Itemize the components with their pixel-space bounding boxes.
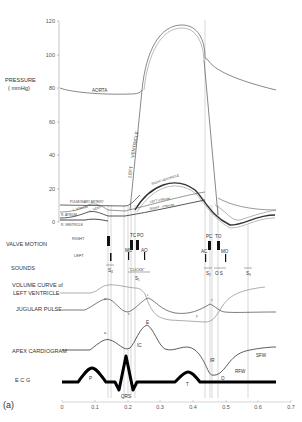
volume-curve xyxy=(60,285,265,322)
apex-ic: IC xyxy=(137,343,142,348)
left-atrium-label: LEFT ATRIUM xyxy=(149,196,170,204)
jug-y: y xyxy=(196,314,198,318)
p-tick-0: 0 xyxy=(52,219,55,225)
right-ventricle-low-curve xyxy=(60,219,108,221)
jugular-curve xyxy=(62,298,276,313)
t-tick-0.7: 0.7 xyxy=(287,404,295,410)
jug-c: c xyxy=(147,293,149,297)
apex-a: a xyxy=(104,330,107,335)
apex-e: E xyxy=(146,320,149,325)
apex-rfw: RFW xyxy=(235,369,246,374)
sound-clicks: "CLICKS" xyxy=(129,268,145,272)
time-axis: 0 0.1 0.2 0.3 0.4 0.5 0.6 0.7 xyxy=(60,400,294,410)
sound-s2: S₂ xyxy=(206,271,211,276)
apex-label: APEX CARDIOGRAM xyxy=(12,348,67,354)
jug-x: x xyxy=(128,312,130,316)
aorta-systolic-inner xyxy=(144,28,204,90)
pressure-label: PRESSURE xyxy=(5,77,36,83)
valve-po: PO xyxy=(137,233,144,238)
lv-label-ventricle: VENTRICLE xyxy=(130,131,140,158)
event-lines xyxy=(108,20,248,398)
panel-label: (a) xyxy=(3,400,14,410)
pa-label: PULMONARY ARTERY xyxy=(70,200,104,204)
apex-sfw: SFW xyxy=(256,353,267,358)
t-tick-0.3: 0.3 xyxy=(156,404,164,410)
valve-right-label: RIGHT xyxy=(72,236,85,241)
pressure-unit-label: ( mmHg) xyxy=(8,85,30,91)
r-atrium-label: R. ATRIUM xyxy=(61,213,77,217)
p-tick-40: 40 xyxy=(49,152,55,158)
wiggers-diagram: 120 100 80 60 40 20 0 PRESSURE ( mmHg) A… xyxy=(0,0,302,422)
pressure-axis: 120 100 80 60 40 20 0 PRESSURE ( mmHg) xyxy=(5,18,59,225)
sound-s3: S₃ xyxy=(246,271,251,276)
p-tick-20: 20 xyxy=(49,186,55,192)
r-ventricle-label: R. VENTRICLE xyxy=(61,223,83,227)
sound-s1: S₁ xyxy=(135,276,140,281)
t-tick-0.5: 0.5 xyxy=(222,404,230,410)
sounds-label: SOUNDS xyxy=(11,265,35,271)
volume-label-2: LEFT VENTRICLE xyxy=(13,290,60,296)
aorta-label: AORTA xyxy=(92,88,108,93)
sound-os: O S xyxy=(215,271,223,276)
ecg-p: P xyxy=(89,376,92,381)
ecg-qrs: QRS xyxy=(121,394,131,399)
jugular-label: JUGULAR PULSE xyxy=(16,306,62,312)
p-tick-80: 80 xyxy=(49,85,55,91)
pa-late-curve xyxy=(218,198,276,210)
lv-label-left: LEFT xyxy=(127,166,134,178)
sound-s4: S₄ xyxy=(108,268,113,273)
apex-ir: IR xyxy=(210,358,215,363)
valve-motion-label: VALVE MOTION xyxy=(6,241,47,247)
t-tick-0.6: 0.6 xyxy=(254,404,262,410)
p-tick-100: 100 xyxy=(46,52,55,58)
t-tick-0.4: 0.4 xyxy=(189,404,197,410)
jug-v: v xyxy=(211,298,213,302)
t-tick-0.2: 0.2 xyxy=(124,404,132,410)
t-tick-0: 0 xyxy=(60,404,63,410)
valve-ao: AO xyxy=(141,248,148,253)
volume-label-1: VOLUME CURVE of xyxy=(12,282,63,288)
p-tick-120: 120 xyxy=(46,18,55,24)
valve-mo: MO xyxy=(221,249,229,254)
valve-tc: TC xyxy=(130,233,137,238)
valve-to: TO xyxy=(215,234,222,239)
valve-left-label: LEFT xyxy=(74,253,84,258)
valve-ac: AC xyxy=(201,249,208,254)
apex-o: O xyxy=(221,376,225,381)
aorta-systolic xyxy=(142,25,276,90)
p-tick-60: 60 xyxy=(49,119,55,125)
ecg-t: T xyxy=(186,382,189,387)
ecg-label: E C G xyxy=(15,377,30,383)
valve-mc: MC xyxy=(125,248,133,253)
l-atrium-label: L. ATRIUM xyxy=(72,205,88,212)
valve-pc: PC xyxy=(206,234,213,239)
t-tick-0.1: 0.1 xyxy=(91,404,99,410)
jug-a: a xyxy=(104,296,107,301)
